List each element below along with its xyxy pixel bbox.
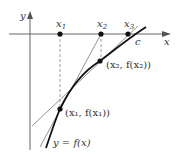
- dot-point-2: [97, 58, 102, 63]
- dot-point-1: [57, 106, 62, 111]
- dot-x2: [98, 31, 103, 36]
- point-2-label: (x₂, f(x₂)): [106, 59, 151, 70]
- point-1-label: (x₁, f(x₁)): [65, 107, 110, 118]
- y-axis-label: y: [19, 10, 26, 21]
- curve-label: y = f(x): [52, 137, 91, 148]
- dot-x1: [57, 31, 62, 36]
- x2-label: x2: [97, 18, 108, 31]
- newtons-method-diagram: y x x1 x2 x3 c (x₂, f(x₂)) (x₁, f(x₁)) y…: [0, 0, 179, 154]
- x-axis-label: x: [164, 36, 170, 47]
- dot-x3: [125, 31, 130, 36]
- diagram-canvas: y x x1 x2 x3 c (x₂, f(x₂)) (x₁, f(x₁)) y…: [0, 0, 179, 154]
- y-axis-arrow-icon: [27, 11, 33, 19]
- root-label-c: c: [135, 36, 141, 47]
- x1-label: x1: [56, 18, 66, 31]
- curve-f: [46, 27, 146, 148]
- x3-label: x3: [124, 18, 135, 31]
